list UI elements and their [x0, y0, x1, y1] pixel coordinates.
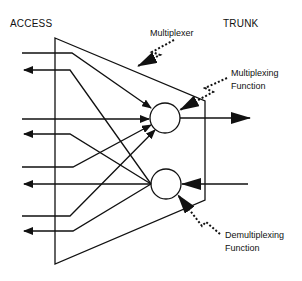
access-input-4: [22, 130, 155, 216]
access-output-4: [24, 184, 151, 231]
multiplexer-body: [55, 38, 205, 264]
diagram-graphics: [0, 0, 302, 281]
multiplexing-function-circle: [150, 103, 180, 133]
multiplexer-diagram: ACCESS TRUNK Multiplexer Multiplexing Fu…: [0, 0, 302, 281]
access-input-3: [22, 125, 151, 167]
multiplexer-callout-pointer: [138, 40, 174, 66]
access-input-1: [22, 53, 151, 108]
demultiplexing-function-circle: [151, 169, 181, 199]
demultiplexing-callout-pointer: [178, 195, 220, 234]
